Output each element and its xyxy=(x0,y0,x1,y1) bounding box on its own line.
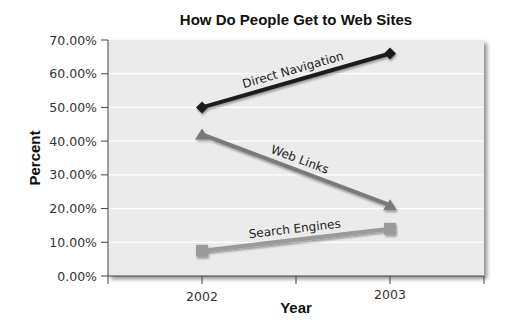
x-tick-label: 2002 xyxy=(186,289,218,304)
y-tick-label: 70.00% xyxy=(49,33,97,48)
x-axis-label: Year xyxy=(280,299,312,316)
x-tick-label: 2003 xyxy=(374,287,406,302)
line-chart: How Do People Get to Web Sites 0.00%10.0… xyxy=(0,0,517,334)
y-axis: 0.00%10.00%20.00%30.00%40.00%50.00%60.00… xyxy=(49,33,108,284)
square-marker xyxy=(384,223,396,235)
y-tick-label: 20.00% xyxy=(49,201,97,216)
y-tick-label: 50.00% xyxy=(49,100,97,115)
square-marker xyxy=(196,245,208,257)
chart-title: How Do People Get to Web Sites xyxy=(180,11,412,28)
y-tick-label: 40.00% xyxy=(49,134,97,149)
y-axis-label: Percent xyxy=(26,130,43,185)
y-tick-label: 0.00% xyxy=(57,269,97,284)
y-tick-label: 60.00% xyxy=(49,66,97,81)
y-tick-label: 30.00% xyxy=(49,167,97,182)
y-tick-label: 10.00% xyxy=(49,235,97,250)
